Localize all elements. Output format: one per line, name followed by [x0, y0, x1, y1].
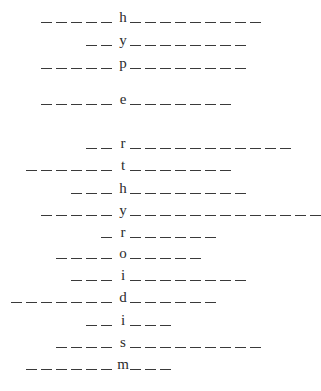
answer-blank[interactable] [250, 347, 261, 348]
answer-blank[interactable] [190, 45, 201, 46]
answer-blank[interactable] [205, 302, 216, 303]
answer-blank[interactable] [205, 215, 216, 216]
answer-blank[interactable] [250, 22, 261, 23]
answer-blank[interactable] [130, 258, 141, 259]
answer-blank[interactable] [175, 302, 186, 303]
answer-blank[interactable] [130, 22, 141, 23]
answer-blank[interactable] [86, 104, 97, 105]
answer-blank[interactable] [145, 45, 156, 46]
answer-blank[interactable] [101, 22, 112, 23]
answer-blank[interactable] [101, 193, 112, 194]
answer-blank[interactable] [56, 369, 67, 370]
answer-blank[interactable] [235, 148, 246, 149]
answer-blank[interactable] [41, 104, 52, 105]
answer-blank[interactable] [56, 215, 67, 216]
answer-blank[interactable] [175, 170, 186, 171]
answer-blank[interactable] [160, 45, 171, 46]
answer-blank[interactable] [220, 104, 231, 105]
answer-blank[interactable] [220, 45, 231, 46]
answer-blank[interactable] [160, 258, 171, 259]
answer-blank[interactable] [86, 22, 97, 23]
answer-blank[interactable] [86, 369, 97, 370]
answer-blank[interactable] [235, 68, 246, 69]
answer-blank[interactable] [265, 148, 276, 149]
answer-blank[interactable] [41, 215, 52, 216]
answer-blank[interactable] [71, 280, 82, 281]
answer-blank[interactable] [160, 347, 171, 348]
answer-blank[interactable] [160, 280, 171, 281]
answer-blank[interactable] [220, 347, 231, 348]
answer-blank[interactable] [280, 148, 291, 149]
answer-blank[interactable] [220, 280, 231, 281]
answer-blank[interactable] [295, 215, 306, 216]
answer-blank[interactable] [145, 237, 156, 238]
answer-blank[interactable] [145, 22, 156, 23]
answer-blank[interactable] [175, 193, 186, 194]
answer-blank[interactable] [101, 369, 112, 370]
answer-blank[interactable] [26, 170, 37, 171]
answer-blank[interactable] [205, 170, 216, 171]
answer-blank[interactable] [190, 237, 201, 238]
answer-blank[interactable] [265, 215, 276, 216]
answer-blank[interactable] [235, 280, 246, 281]
answer-blank[interactable] [101, 325, 112, 326]
answer-blank[interactable] [71, 68, 82, 69]
answer-blank[interactable] [130, 68, 141, 69]
answer-blank[interactable] [101, 68, 112, 69]
answer-blank[interactable] [235, 45, 246, 46]
answer-blank[interactable] [71, 369, 82, 370]
answer-blank[interactable] [56, 68, 67, 69]
answer-blank[interactable] [101, 45, 112, 46]
answer-blank[interactable] [190, 22, 201, 23]
answer-blank[interactable] [101, 258, 112, 259]
answer-blank[interactable] [175, 215, 186, 216]
answer-blank[interactable] [56, 347, 67, 348]
answer-blank[interactable] [71, 170, 82, 171]
answer-blank[interactable] [101, 302, 112, 303]
answer-blank[interactable] [205, 280, 216, 281]
answer-blank[interactable] [190, 258, 201, 259]
answer-blank[interactable] [11, 302, 22, 303]
answer-blank[interactable] [235, 215, 246, 216]
answer-blank[interactable] [220, 22, 231, 23]
answer-blank[interactable] [101, 170, 112, 171]
answer-blank[interactable] [205, 237, 216, 238]
answer-blank[interactable] [175, 258, 186, 259]
answer-blank[interactable] [190, 68, 201, 69]
answer-blank[interactable] [145, 215, 156, 216]
answer-blank[interactable] [205, 193, 216, 194]
answer-blank[interactable] [130, 104, 141, 105]
answer-blank[interactable] [190, 302, 201, 303]
answer-blank[interactable] [145, 347, 156, 348]
answer-blank[interactable] [175, 68, 186, 69]
answer-blank[interactable] [190, 215, 201, 216]
answer-blank[interactable] [130, 280, 141, 281]
answer-blank[interactable] [280, 215, 291, 216]
answer-blank[interactable] [86, 347, 97, 348]
answer-blank[interactable] [235, 347, 246, 348]
answer-blank[interactable] [190, 347, 201, 348]
answer-blank[interactable] [160, 104, 171, 105]
answer-blank[interactable] [130, 45, 141, 46]
answer-blank[interactable] [220, 215, 231, 216]
answer-blank[interactable] [220, 148, 231, 149]
answer-blank[interactable] [175, 104, 186, 105]
answer-blank[interactable] [175, 347, 186, 348]
answer-blank[interactable] [205, 22, 216, 23]
answer-blank[interactable] [250, 148, 261, 149]
answer-blank[interactable] [130, 148, 141, 149]
answer-blank[interactable] [130, 170, 141, 171]
answer-blank[interactable] [71, 347, 82, 348]
answer-blank[interactable] [175, 22, 186, 23]
answer-blank[interactable] [41, 22, 52, 23]
answer-blank[interactable] [56, 170, 67, 171]
answer-blank[interactable] [235, 22, 246, 23]
answer-blank[interactable] [56, 258, 67, 259]
answer-blank[interactable] [160, 148, 171, 149]
answer-blank[interactable] [130, 302, 141, 303]
answer-blank[interactable] [86, 68, 97, 69]
answer-blank[interactable] [145, 68, 156, 69]
answer-blank[interactable] [130, 215, 141, 216]
answer-blank[interactable] [56, 104, 67, 105]
answer-blank[interactable] [160, 22, 171, 23]
